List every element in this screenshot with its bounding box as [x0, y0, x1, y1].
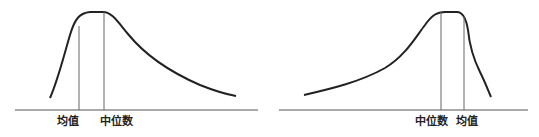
positive-skew-diagram	[15, 12, 258, 110]
median-label-left: 中位数	[100, 116, 133, 127]
mean-label-left: 均值	[57, 116, 79, 127]
distribution-curve-right	[304, 12, 491, 97]
mean-label-right: 均值	[456, 116, 478, 127]
distribution-curve-left	[50, 12, 236, 98]
median-label-right: 中位数	[415, 116, 448, 127]
negative-skew-diagram	[279, 12, 528, 110]
